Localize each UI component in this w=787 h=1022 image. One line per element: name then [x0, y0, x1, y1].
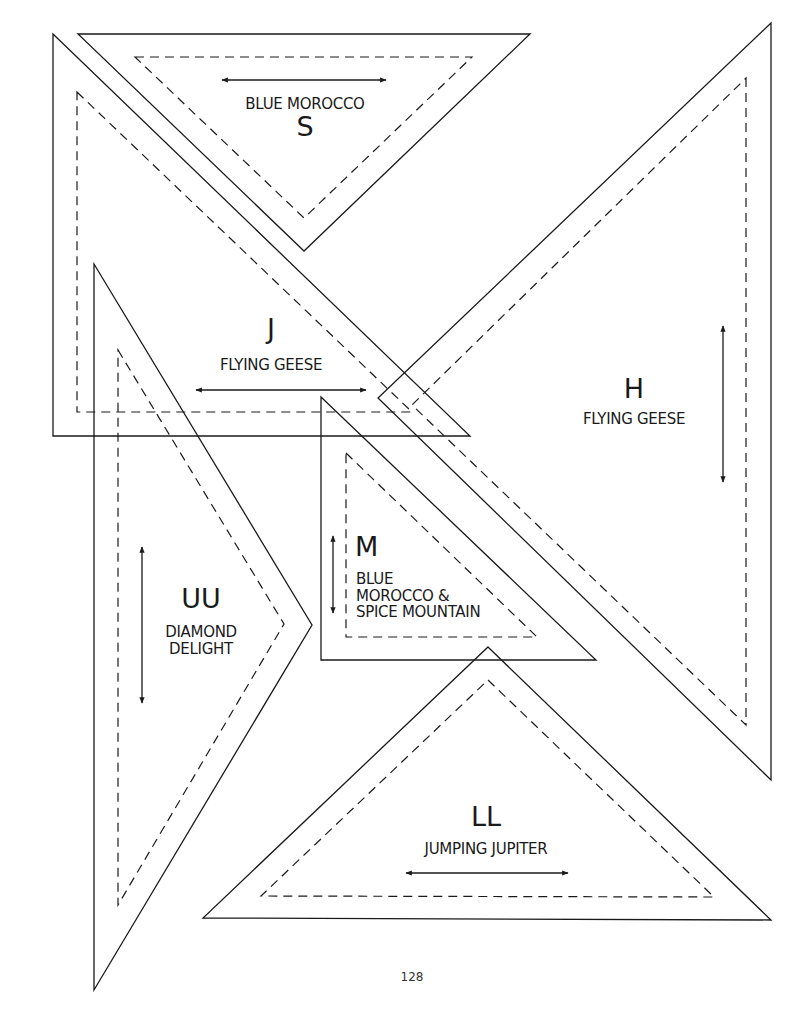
seam-line [261, 680, 714, 897]
template-h [378, 23, 771, 780]
template-uu-name: DIAMOND DELIGHT [165, 624, 237, 657]
cutting-line [203, 647, 771, 920]
template-h-code: H [624, 374, 644, 404]
template-s [78, 34, 530, 251]
template-uu-code: UU [181, 584, 221, 614]
page-number: 128 [401, 970, 424, 984]
template-ll [203, 647, 771, 920]
template-j-code: J [267, 314, 275, 344]
cutting-line [378, 23, 771, 780]
template-m-name: BLUE MOROCCO & SPICE MOUNTAIN [356, 571, 480, 621]
seam-line [412, 78, 746, 725]
pattern-canvas [0, 0, 787, 1022]
template-ll-code: LL [471, 802, 501, 832]
template-s-code: S [296, 112, 313, 142]
template-s-name: BLUE MOROCCO [245, 96, 364, 113]
template-shapes [53, 23, 771, 990]
template-h-name: FLYING GEESE [583, 411, 685, 428]
template-j-name: FLYING GEESE [220, 357, 322, 374]
template-m-code: M [355, 532, 378, 562]
template-ll-name: JUMPING JUPITER [425, 841, 548, 858]
